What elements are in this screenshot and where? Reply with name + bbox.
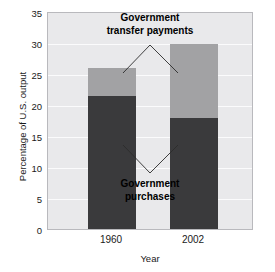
annotation-transfer-payments: Government transfer payments — [83, 12, 217, 37]
annotation-government-purchases-line1: Government — [83, 178, 217, 191]
bar-2002-transfers-segment — [170, 44, 218, 118]
bar-1960-transfers-segment — [88, 68, 136, 96]
gridline-15 — [48, 137, 252, 138]
gridline-10 — [48, 168, 252, 169]
bar-1960-purchases-segment — [88, 96, 136, 229]
cropped-caption — [14, 0, 214, 6]
annotation-government-purchases: Government purchases — [83, 178, 217, 203]
bar-1960 — [88, 68, 136, 229]
gridline-25 — [48, 75, 252, 76]
gridline-30 — [48, 44, 252, 45]
chart-figure: 35 30 25 20 15 10 5 0 Percentage of U.S.… — [0, 0, 275, 272]
y-tick-label-0: 0 — [16, 225, 42, 236]
bar-2002-purchases-segment — [170, 118, 218, 229]
y-tick-label-35: 35 — [16, 8, 42, 19]
x-axis-title: Year — [47, 253, 253, 264]
gridline-20 — [48, 106, 252, 107]
x-tick-label-2002: 2002 — [158, 234, 228, 245]
annotation-government-purchases-line2: purchases — [83, 191, 217, 204]
annotation-transfer-payments-line2: transfer payments — [83, 25, 217, 38]
y-axis-title: Percentage of U.S. output — [17, 47, 28, 207]
annotation-transfer-payments-line1: Government — [83, 12, 217, 25]
x-tick-label-1960: 1960 — [76, 234, 146, 245]
